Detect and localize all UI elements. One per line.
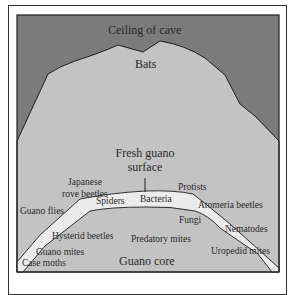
uropedid-label: Uropedid mites bbox=[211, 247, 270, 257]
guano-flies-label: Guano flies bbox=[20, 207, 64, 217]
atomeria-label: Atomeria beetles bbox=[198, 201, 263, 211]
spiders-label: Spiders bbox=[96, 197, 125, 207]
ceiling-label: Ceiling of cave bbox=[108, 24, 181, 36]
bacteria-label: Bacteria bbox=[140, 195, 172, 205]
japanese-label-line1: Japanese bbox=[60, 178, 110, 188]
protists-label: Protists bbox=[178, 183, 207, 193]
hysterid-label: Hysterid beetles bbox=[52, 232, 113, 242]
fungi-label: Fungi bbox=[179, 216, 201, 226]
nematodes-label: Nematodes bbox=[225, 225, 268, 235]
guano-core-label: Guano core bbox=[119, 255, 175, 267]
surface-label-line1: Fresh guano bbox=[110, 147, 180, 159]
predatory-mites-label: Predatory mites bbox=[131, 235, 191, 245]
guano-mites-label: Guano mites bbox=[36, 248, 84, 258]
bats-label: Bats bbox=[135, 58, 156, 70]
surface-label-line2: surface bbox=[110, 161, 180, 173]
case-moths-label: Case moths bbox=[22, 259, 66, 269]
